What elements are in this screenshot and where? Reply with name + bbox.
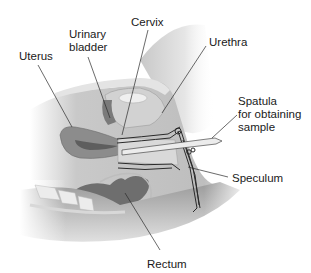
label-uterus: Uterus	[19, 50, 53, 63]
anatomy-diagram: Uterus Urinary bladder Cervix Urethra Sp…	[0, 0, 311, 273]
label-spatula: Spatula for obtaining sample	[238, 95, 301, 134]
label-speculum: Speculum	[232, 172, 283, 185]
label-rectum: Rectum	[147, 258, 187, 271]
label-urethra: Urethra	[209, 36, 247, 49]
lower-body-shape	[20, 180, 250, 250]
illustration	[0, 0, 311, 273]
label-cervix: Cervix	[131, 16, 164, 29]
label-urinary-bladder: Urinary bladder	[69, 28, 107, 54]
